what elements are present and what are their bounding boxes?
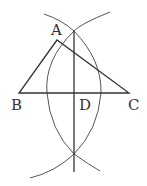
label-d: D — [79, 96, 91, 114]
label-c: C — [128, 96, 139, 114]
geometry-diagram: A B D C — [0, 0, 147, 186]
label-b: B — [11, 96, 22, 114]
label-a: A — [50, 21, 62, 39]
